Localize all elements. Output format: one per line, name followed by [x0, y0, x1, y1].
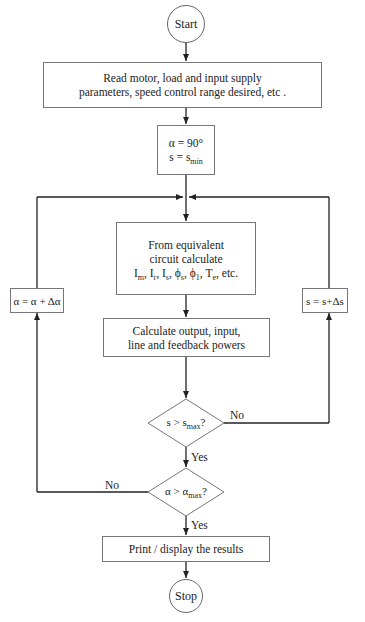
init-s-prefix: s = s	[169, 151, 190, 163]
decision-s-sub: max	[187, 422, 201, 431]
decision-alpha-no-label: No	[105, 479, 119, 491]
var-base: T	[205, 267, 212, 279]
decision-s-text: s > smax?	[148, 416, 224, 428]
read-parameters-box: Read motor, load and input supply parame…	[43, 62, 322, 108]
calculate-powers-box: Calculate output, input, line and feedba…	[103, 318, 270, 357]
init-s: s = smin	[169, 150, 203, 164]
alpha-increment-box: α = α + Δα	[10, 288, 64, 313]
calc-line1: Calculate output, input,	[133, 324, 241, 338]
var-sub: e	[213, 273, 217, 282]
var-sub: s	[181, 273, 184, 282]
var-sub: r	[154, 273, 157, 282]
equiv-line1: From equivalent	[148, 238, 224, 252]
var-tail: etc.	[222, 267, 238, 279]
decision-alpha-suffix: ?	[202, 485, 207, 497]
initialize-box: α = 90° s = smin	[157, 125, 215, 175]
s-increment-box: s = s+Δs	[302, 288, 348, 313]
decision-s-prefix: s > s	[167, 416, 187, 428]
s-increment-label: s = s+Δs	[306, 294, 344, 308]
equiv-line2: circuit calculate	[149, 252, 222, 266]
decision-s-no-label: No	[230, 409, 244, 421]
start-terminal: Start	[167, 5, 205, 43]
var-sub: s	[166, 273, 169, 282]
equiv-line3: Im, Ir, Is, ϕs, ϕ1, Te, etc.	[134, 266, 238, 280]
equivalent-circuit-box: From equivalent circuit calculate Im, Ir…	[116, 222, 256, 295]
read-params-line1: Read motor, load and input supply	[103, 71, 262, 85]
start-label: Start	[175, 17, 198, 31]
print-results-box: Print / display the results	[102, 536, 270, 562]
decision-s-yes-label: Yes	[191, 451, 208, 463]
init-alpha: α = 90°	[169, 136, 203, 150]
stop-terminal: Stop	[169, 579, 203, 613]
var-sub: m	[138, 273, 144, 282]
decision-alpha-sub: max	[188, 491, 202, 500]
stop-label: Stop	[175, 589, 197, 603]
decision-alpha-prefix: α > α	[165, 485, 188, 497]
decision-s-suffix: ?	[201, 416, 206, 428]
read-params-line2: parameters, speed control range desired,…	[79, 85, 286, 99]
decision-alpha-yes-label: Yes	[191, 519, 208, 531]
alpha-increment-label: α = α + Δα	[13, 294, 60, 308]
calc-line2: line and feedback powers	[128, 338, 245, 352]
var-sub: 1	[196, 273, 200, 282]
decision-alpha-text: α > αmax?	[148, 485, 224, 497]
init-s-sub: min	[190, 157, 202, 166]
print-results-label: Print / display the results	[129, 542, 243, 556]
